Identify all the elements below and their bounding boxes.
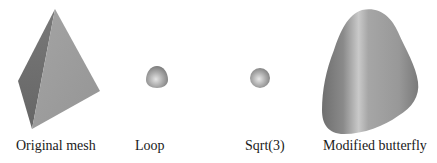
label-loop: Loop [135, 137, 165, 155]
loop-subdivision-result [146, 66, 168, 88]
label-modified-butterfly: Modified butterfly [323, 137, 427, 155]
modified-butterfly-subdivision-result [322, 9, 418, 134]
sqrt3-subdivision-result [250, 68, 270, 88]
label-sqrt3: Sqrt(3) [245, 137, 285, 155]
tetrahedron-mesh [18, 9, 100, 129]
label-original-mesh: Original mesh [16, 137, 96, 155]
